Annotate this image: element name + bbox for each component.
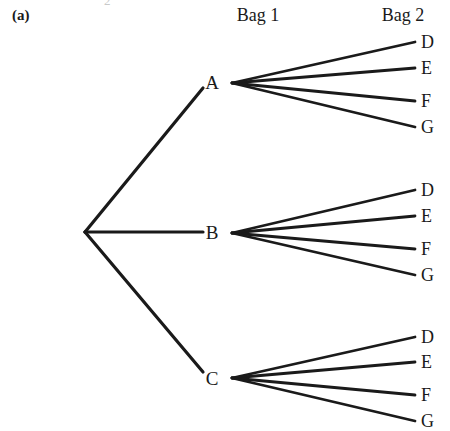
tree-diagram-figure: (a) 2 Bag 1Bag 2 ABC DEFGDEFGDEFG — [0, 0, 450, 431]
leaf-b-f: F — [421, 240, 431, 258]
node-b: B — [206, 223, 219, 242]
leaf-c-e: E — [421, 353, 432, 371]
column-header-bag-1: Bag 1 — [237, 6, 280, 24]
branch-c-to-f — [232, 378, 415, 395]
leaf-a-g: G — [421, 118, 434, 136]
branch-c-to-d — [232, 337, 415, 378]
node-c: C — [206, 369, 219, 388]
figure-part-label: (a) — [12, 8, 30, 23]
leaf-b-e: E — [421, 207, 432, 225]
branch-a-to-g — [232, 83, 415, 127]
cropped-superscript-artifact: 2 — [104, 0, 111, 7]
branch-b-to-d — [232, 190, 415, 233]
tree-branches — [0, 0, 450, 431]
node-a: A — [205, 73, 219, 92]
column-header-bag-2: Bag 2 — [382, 6, 425, 24]
leaf-c-g: G — [421, 412, 434, 430]
leaf-a-f: F — [421, 92, 431, 110]
branch-c-to-e — [232, 362, 415, 378]
leaf-b-d: D — [421, 181, 434, 199]
leaf-c-f: F — [421, 386, 431, 404]
branch-c-to-g — [232, 378, 415, 421]
branch-root-to-a — [85, 88, 203, 232]
branch-b-to-f — [232, 233, 415, 249]
branch-b-to-g — [232, 233, 415, 275]
leaf-a-d: D — [421, 33, 434, 51]
branch-b-to-e — [232, 216, 415, 233]
branch-a-to-f — [232, 83, 415, 101]
leaf-a-e: E — [421, 59, 432, 77]
branch-root-to-c — [85, 232, 203, 372]
leaf-c-d: D — [421, 328, 434, 346]
leaf-b-g: G — [421, 266, 434, 284]
